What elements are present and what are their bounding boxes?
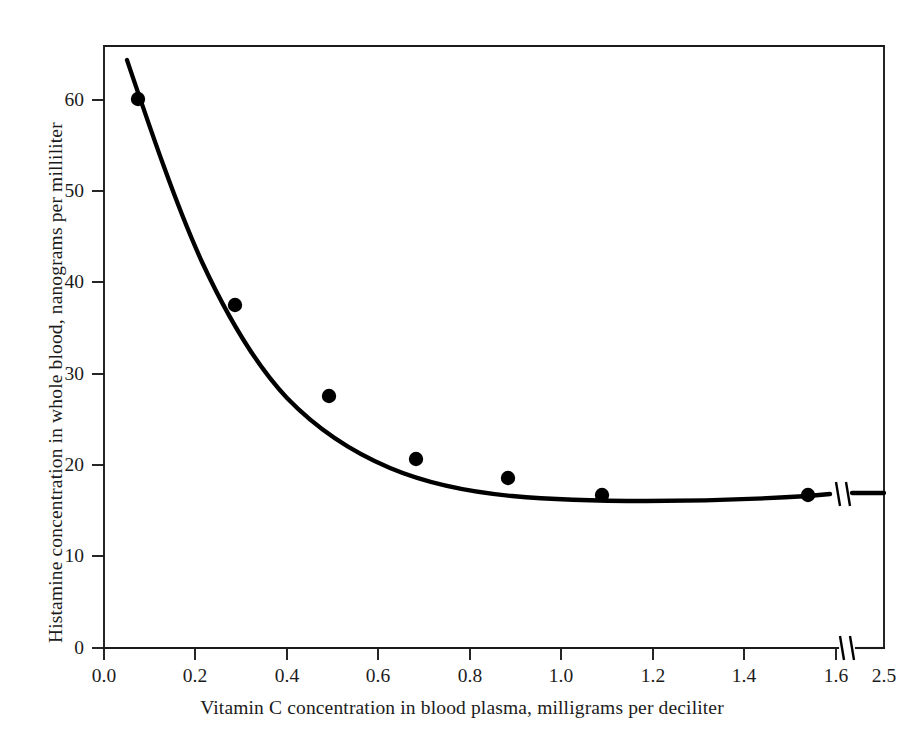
y-tick-label-0: 0 — [42, 637, 84, 659]
y-tick-label-60: 60 — [42, 89, 84, 111]
data-point — [501, 471, 515, 485]
x-tick-label-0.8: 0.8 — [440, 665, 500, 687]
x-tick-label-0.2: 0.2 — [165, 665, 225, 687]
figure-histamine-vs-vitamin-c: 60 50 40 30 20 10 0 0.0 0.2 0.4 0.6 0.8 … — [0, 0, 924, 746]
plot-canvas — [0, 0, 924, 746]
curve-break-slash-1 — [836, 482, 840, 506]
y-tick-label-40: 40 — [42, 271, 84, 293]
y-tick-label-30: 30 — [42, 363, 84, 385]
data-point — [801, 488, 815, 502]
fitted-curve — [127, 60, 830, 501]
data-point — [322, 389, 336, 403]
data-point — [595, 488, 609, 502]
plot-frame — [104, 46, 884, 648]
y-tick-label-20: 20 — [42, 454, 84, 476]
x-axis-break-slash-1 — [840, 636, 844, 660]
x-axis-break-slash-2 — [850, 636, 854, 660]
data-point — [409, 452, 423, 466]
data-point — [228, 298, 242, 312]
data-points — [131, 92, 815, 502]
x-tick-label-0.4: 0.4 — [257, 665, 317, 687]
y-axis-ticks — [92, 100, 104, 648]
x-axis-title: Vitamin C concentration in blood plasma,… — [0, 697, 924, 719]
x-tick-label-1.4: 1.4 — [714, 665, 774, 687]
data-point — [131, 92, 145, 106]
x-tick-label-0.6: 0.6 — [348, 665, 408, 687]
x-tick-label-1.2: 1.2 — [623, 665, 683, 687]
x-tick-label-0.0: 0.0 — [74, 665, 134, 687]
x-axis-ticks — [104, 648, 836, 660]
y-tick-label-50: 50 — [42, 180, 84, 202]
y-tick-label-10: 10 — [42, 545, 84, 567]
curve-break-slash-2 — [846, 482, 850, 506]
x-tick-label-2.5: 2.5 — [854, 665, 914, 687]
x-tick-label-1.0: 1.0 — [531, 665, 591, 687]
